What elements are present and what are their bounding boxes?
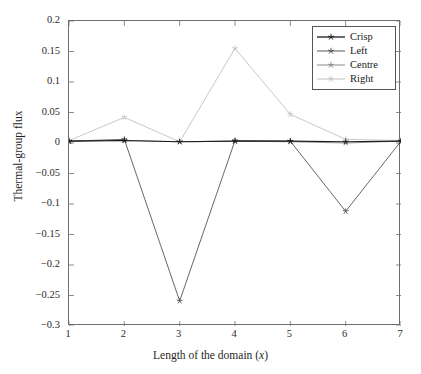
x-tick-label: 2 xyxy=(108,328,138,339)
x-tick-label: 3 xyxy=(164,328,194,339)
x-tick-label: 5 xyxy=(274,328,304,339)
x-tick-label: 7 xyxy=(385,328,415,339)
legend-line-marker-icon xyxy=(316,59,346,71)
x-axis-title: Length of the domain (x) xyxy=(0,349,421,361)
x-tick-label: 6 xyxy=(330,328,360,339)
x-tick-label: 1 xyxy=(53,328,83,339)
y-tick-label: −0.25 xyxy=(14,289,60,300)
legend-item-centre[interactable]: Centre xyxy=(316,58,391,72)
x-axis-title-main: Length of the domain ( xyxy=(153,349,259,361)
legend-item-right[interactable]: Right xyxy=(316,72,391,86)
legend-item-label: Left xyxy=(350,45,368,57)
x-tick-label: 4 xyxy=(219,328,249,339)
y-tick-label: 0.05 xyxy=(14,106,60,117)
legend-item-label: Right xyxy=(350,73,373,85)
chart-figure: Thermal-group flux 0.20.150.10.050−0.05−… xyxy=(0,0,421,374)
x-axis-title-end: ) xyxy=(264,349,268,361)
y-tick-label: −0.15 xyxy=(14,228,60,239)
legend: CrispLeftCentreRight xyxy=(312,26,396,90)
y-tick-label: 0.15 xyxy=(14,45,60,56)
y-tick-label: −0.2 xyxy=(14,258,60,269)
legend-item-left[interactable]: Left xyxy=(316,44,391,58)
legend-line-marker-icon xyxy=(316,45,346,57)
y-tick-label: −0.1 xyxy=(14,197,60,208)
y-tick-label: 0 xyxy=(14,136,60,147)
y-axis-title: Thermal-group flux xyxy=(12,56,24,256)
legend-line-marker-icon xyxy=(316,73,346,85)
series-left xyxy=(69,136,401,303)
y-tick-label: 0.1 xyxy=(14,75,60,86)
legend-line-marker-icon xyxy=(316,31,346,43)
legend-item-label: Crisp xyxy=(350,31,373,43)
legend-item-label: Centre xyxy=(350,59,378,71)
legend-item-crisp[interactable]: Crisp xyxy=(316,30,391,44)
y-tick-label: 0.2 xyxy=(14,14,60,25)
y-tick-label: −0.05 xyxy=(14,167,60,178)
